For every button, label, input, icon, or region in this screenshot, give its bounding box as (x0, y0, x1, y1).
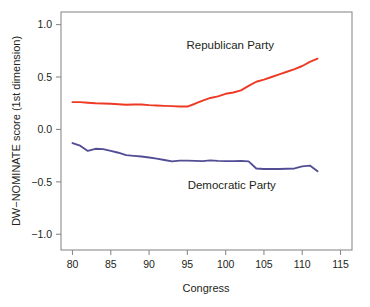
x-tick-label: 105 (255, 258, 273, 270)
series-annotations: Republican PartyDemocratic Party (186, 39, 276, 191)
y-tick-label: −1.0 (31, 228, 52, 240)
y-axis-title: DW−NOMINATE score (1st dimension) (10, 36, 22, 226)
x-tick-label: 110 (294, 258, 311, 270)
data-series-group (72, 59, 317, 172)
x-tick-label: 115 (332, 258, 349, 270)
y-tick-label: 0.5 (37, 71, 52, 83)
y-tick-label: 0.0 (37, 123, 52, 135)
chart-figure: 1.00.50.0−0.5−1.0 80859095100105110115 R… (0, 0, 370, 307)
y-tick-label: 1.0 (37, 18, 52, 30)
series-label-republican-party: Republican Party (186, 39, 274, 51)
y-tick-label: −0.5 (31, 176, 52, 188)
x-tick-label: 90 (143, 258, 155, 270)
line-chart: 1.00.50.0−0.5−1.0 80859095100105110115 R… (0, 0, 370, 307)
x-tick-label: 100 (217, 258, 235, 270)
x-tick-label: 85 (105, 258, 117, 270)
x-axis-ticks: 80859095100105110115 (67, 250, 349, 270)
x-tick-label: 80 (67, 258, 79, 270)
series-line-republican-party (72, 59, 317, 107)
y-axis-ticks: 1.00.50.0−0.5−1.0 (31, 18, 61, 240)
series-label-democratic-party: Democratic Party (188, 179, 276, 191)
x-tick-label: 95 (182, 258, 194, 270)
x-axis-title: Congress (182, 282, 230, 294)
series-line-democratic-party (72, 143, 317, 171)
